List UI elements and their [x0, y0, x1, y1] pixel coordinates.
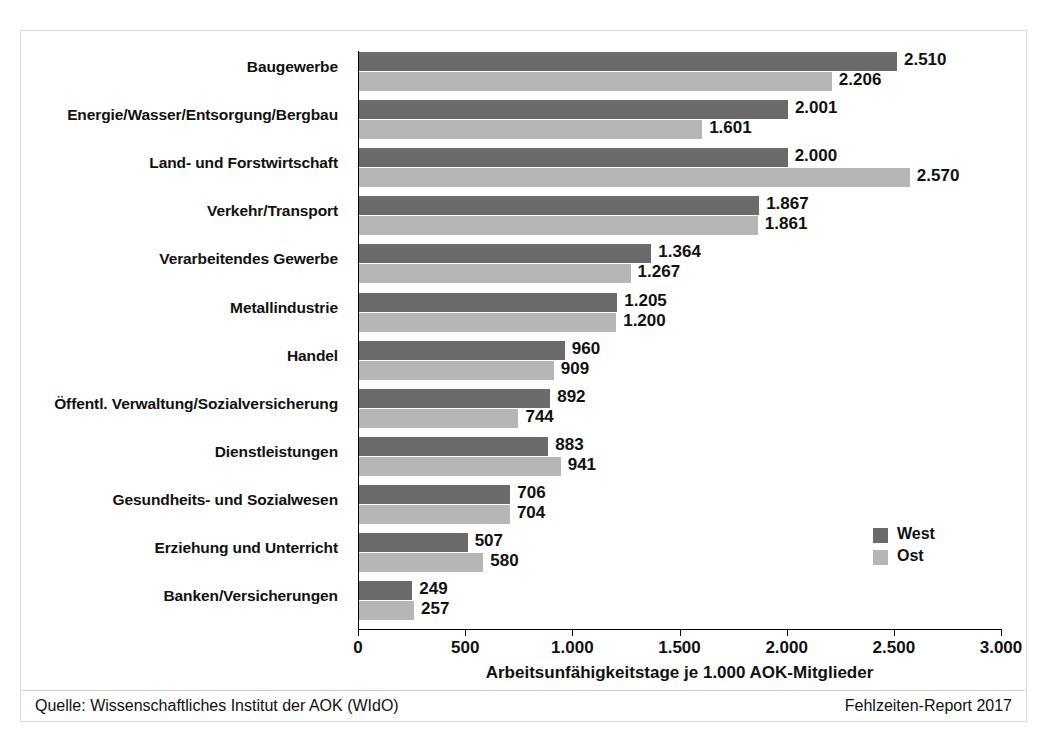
- category-label: Handel: [0, 347, 338, 365]
- bar-value-ost: 257: [421, 599, 449, 619]
- bar-west[interactable]: [359, 100, 788, 119]
- x-axis-tick: [358, 629, 359, 636]
- bar-ost[interactable]: [359, 409, 518, 428]
- bar-group: Verkehr/Transport1.8671.861: [21, 195, 1026, 240]
- bar-group: Energie/Wasser/Entsorgung/Bergbau2.0011.…: [21, 99, 1026, 144]
- category-label: Dienstleistungen: [0, 443, 338, 461]
- legend-item-ost[interactable]: Ost: [873, 547, 993, 569]
- bar-value-ost: 580: [490, 551, 518, 571]
- bar-value-west: 507: [475, 531, 503, 551]
- category-label: Land- und Forstwirtschaft: [0, 154, 338, 172]
- legend-swatch-ost-icon: [873, 550, 888, 565]
- bar-west[interactable]: [359, 52, 897, 71]
- bar-ost[interactable]: [359, 120, 702, 139]
- x-axis-title: Arbeitsunfähigkeitstage je 1.000 AOK-Mit…: [358, 663, 1001, 683]
- bar-west[interactable]: [359, 293, 617, 312]
- bar-value-west: 2.001: [795, 98, 838, 118]
- bar-value-west: 1.205: [624, 291, 667, 311]
- bar-ost[interactable]: [359, 264, 631, 283]
- bar-value-west: 883: [555, 435, 583, 455]
- x-axis-tick: [465, 629, 466, 636]
- bar-value-west: 2.000: [795, 146, 838, 166]
- bar-group: Dienstleistungen883941: [21, 436, 1026, 481]
- category-label: Gesundheits- und Sozialwesen: [0, 491, 338, 509]
- bar-west[interactable]: [359, 148, 788, 167]
- legend-item-west[interactable]: West: [873, 525, 993, 547]
- footer-report: Fehlzeiten-Report 2017: [845, 697, 1012, 715]
- category-label: Verarbeitendes Gewerbe: [0, 250, 338, 268]
- category-label: Banken/Versicherungen: [0, 587, 338, 605]
- chart-legend: West Ost: [873, 525, 993, 569]
- category-label: Energie/Wasser/Entsorgung/Bergbau: [0, 106, 338, 124]
- bar-west[interactable]: [359, 485, 510, 504]
- bar-value-west: 2.510: [904, 50, 947, 70]
- category-label: Verkehr/Transport: [0, 202, 338, 220]
- bar-west[interactable]: [359, 244, 651, 263]
- x-axis-tick-label: 500: [451, 638, 479, 658]
- legend-label-west: West: [897, 525, 935, 543]
- bar-ost[interactable]: [359, 361, 554, 380]
- x-axis-tick: [787, 629, 788, 636]
- chart-figure: 05001.0001.5002.0002.5003.000 Baugewerbe…: [20, 30, 1027, 722]
- x-axis-tick: [894, 629, 895, 636]
- bar-value-ost: 2.206: [839, 70, 882, 90]
- bar-group: Land- und Forstwirtschaft2.0002.570: [21, 147, 1026, 192]
- bar-ost[interactable]: [359, 168, 910, 187]
- bar-group: Verarbeitendes Gewerbe1.3641.267: [21, 243, 1026, 288]
- x-axis-tick-label: 3.000: [980, 638, 1023, 658]
- bar-value-ost: 1.267: [638, 262, 681, 282]
- x-axis-tick: [572, 629, 573, 636]
- x-axis-tick-label: 1.000: [551, 638, 594, 658]
- chart-plot-area: 05001.0001.5002.0002.5003.000 Baugewerbe…: [21, 31, 1026, 676]
- legend-swatch-west-icon: [873, 528, 888, 543]
- bar-group: Banken/Versicherungen249257: [21, 580, 1026, 625]
- bar-value-west: 960: [572, 339, 600, 359]
- bar-ost[interactable]: [359, 505, 510, 524]
- category-label: Öffentl. Verwaltung/Sozialversicherung: [0, 395, 338, 413]
- x-axis-tick-label: 1.500: [658, 638, 701, 658]
- bar-ost[interactable]: [359, 457, 561, 476]
- x-axis-tick-label: 2.000: [765, 638, 808, 658]
- bar-group: Baugewerbe2.5102.206: [21, 51, 1026, 96]
- bar-value-ost: 1.861: [765, 214, 808, 234]
- bar-value-ost: 909: [561, 359, 589, 379]
- bar-value-ost: 2.570: [917, 166, 960, 186]
- bar-value-ost: 744: [525, 407, 553, 427]
- bar-west[interactable]: [359, 581, 412, 600]
- bar-ost[interactable]: [359, 313, 616, 332]
- x-axis-tick-label: 0: [353, 638, 362, 658]
- chart-footer: Quelle: Wissenschaftliches Institut der …: [21, 697, 1026, 721]
- bar-ost[interactable]: [359, 216, 758, 235]
- bar-west[interactable]: [359, 196, 759, 215]
- bar-west[interactable]: [359, 389, 550, 408]
- bar-west[interactable]: [359, 437, 548, 456]
- bar-west[interactable]: [359, 341, 565, 360]
- bar-group: Gesundheits- und Sozialwesen706704: [21, 484, 1026, 529]
- bar-west[interactable]: [359, 533, 468, 552]
- bar-value-west: 892: [557, 387, 585, 407]
- bar-ost[interactable]: [359, 601, 414, 620]
- bar-ost[interactable]: [359, 72, 832, 91]
- category-label: Baugewerbe: [0, 58, 338, 76]
- footer-divider: [22, 690, 1025, 691]
- x-axis-tick: [1001, 629, 1002, 636]
- bar-group: Öffentl. Verwaltung/Sozialversicherung89…: [21, 388, 1026, 433]
- x-axis-tick: [680, 629, 681, 636]
- bar-group: Handel960909: [21, 340, 1026, 385]
- bar-value-ost: 1.200: [623, 311, 666, 331]
- bar-value-ost: 941: [568, 455, 596, 475]
- bar-value-west: 1.364: [658, 242, 701, 262]
- category-label: Erziehung und Unterricht: [0, 539, 338, 557]
- bar-value-west: 1.867: [766, 194, 809, 214]
- bar-ost[interactable]: [359, 553, 483, 572]
- x-axis-tick-label: 2.500: [873, 638, 916, 658]
- bar-value-west: 706: [517, 483, 545, 503]
- bar-value-ost: 1.601: [709, 118, 752, 138]
- footer-source: Quelle: Wissenschaftliches Institut der …: [35, 697, 399, 715]
- bar-value-ost: 704: [517, 503, 545, 523]
- bar-value-west: 249: [419, 579, 447, 599]
- bar-group: Metallindustrie1.2051.200: [21, 292, 1026, 337]
- legend-label-ost: Ost: [897, 547, 924, 565]
- category-label: Metallindustrie: [0, 299, 338, 317]
